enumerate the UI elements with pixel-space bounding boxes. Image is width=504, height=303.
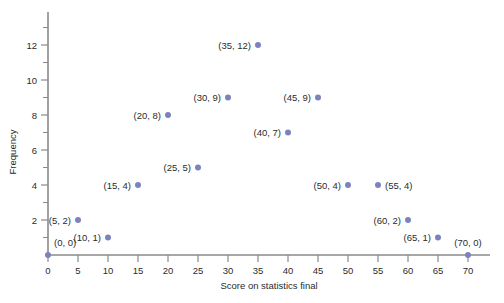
data-point-label: (55, 4): [385, 180, 412, 191]
data-point: (35, 12): [218, 40, 261, 51]
data-point-label: (40, 7): [254, 127, 281, 138]
data-point: (30, 9): [194, 92, 231, 103]
data-point-marker: [345, 182, 351, 188]
data-point-marker: [375, 182, 381, 188]
y-tick-label: 4: [32, 180, 37, 191]
data-point-marker: [105, 235, 111, 241]
x-axis-ticks: 0510152025303540455055606570: [45, 255, 473, 276]
y-tick-label: 8: [32, 110, 37, 121]
y-tick-label: 12: [26, 40, 37, 51]
x-tick-label: 30: [223, 265, 234, 276]
data-point-marker: [405, 217, 411, 223]
y-axis-ticks: 24681012: [26, 28, 48, 238]
data-point-marker: [195, 165, 201, 171]
data-point: (40, 7): [254, 127, 291, 138]
x-tick-label: 15: [133, 265, 144, 276]
x-tick-label: 0: [45, 265, 50, 276]
data-point-marker: [315, 95, 321, 101]
y-tick-label: 6: [32, 145, 37, 156]
y-axis-title: Frequency: [7, 129, 18, 174]
x-tick-label: 5: [75, 265, 80, 276]
data-point-label: (45, 9): [284, 92, 311, 103]
data-point-label: (30, 9): [194, 92, 221, 103]
data-point: (50, 4): [314, 180, 351, 191]
plot-area: 24681012 0510152025303540455055606570 (0…: [0, 0, 504, 303]
data-point-label: (65, 1): [404, 232, 431, 243]
data-point-label: (10, 1): [74, 232, 101, 243]
data-point-label: (25, 5): [164, 162, 191, 173]
data-point: (10, 1): [74, 232, 111, 243]
data-point-marker: [225, 95, 231, 101]
data-point: (20, 8): [134, 110, 171, 121]
x-tick-label: 20: [163, 265, 174, 276]
x-tick-label: 60: [403, 265, 414, 276]
data-point: (45, 9): [284, 92, 321, 103]
data-point: (15, 4): [104, 180, 141, 191]
x-tick-label: 40: [283, 265, 294, 276]
scatter-chart: 24681012 0510152025303540455055606570 (0…: [0, 0, 504, 303]
data-point-label: (15, 4): [104, 180, 131, 191]
x-tick-label: 35: [253, 265, 264, 276]
data-point-label: (60, 2): [374, 215, 401, 226]
x-tick-label: 45: [313, 265, 324, 276]
data-point: (25, 5): [164, 162, 201, 173]
data-point-marker: [45, 252, 51, 258]
x-tick-label: 50: [343, 265, 354, 276]
data-point: (55, 4): [375, 180, 412, 191]
y-tick-label: 2: [32, 215, 37, 226]
x-tick-label: 70: [463, 265, 474, 276]
data-point-label: (70, 0): [454, 237, 481, 248]
data-point-marker: [255, 42, 261, 48]
data-point-label: (35, 12): [218, 40, 251, 51]
data-point-label: (5, 2): [49, 215, 71, 226]
data-point-marker: [135, 182, 141, 188]
data-point-marker: [75, 217, 81, 223]
data-point: (60, 2): [374, 215, 411, 226]
y-tick-label: 10: [26, 75, 37, 86]
data-point-marker: [165, 112, 171, 118]
x-tick-label: 55: [373, 265, 384, 276]
data-point: (5, 2): [49, 215, 81, 226]
data-point-marker: [465, 252, 471, 258]
data-point-marker: [435, 235, 441, 241]
x-axis-title: Score on statistics final: [220, 280, 317, 291]
data-point: (65, 1): [404, 232, 441, 243]
data-point-label: (20, 8): [134, 110, 161, 121]
data-points-layer: (0, 0)(5, 2)(10, 1)(15, 4)(20, 8)(25, 5)…: [45, 40, 482, 259]
data-point-marker: [285, 130, 291, 136]
x-tick-label: 65: [433, 265, 444, 276]
data-point-label: (50, 4): [314, 180, 341, 191]
x-tick-label: 10: [103, 265, 114, 276]
x-tick-label: 25: [193, 265, 204, 276]
